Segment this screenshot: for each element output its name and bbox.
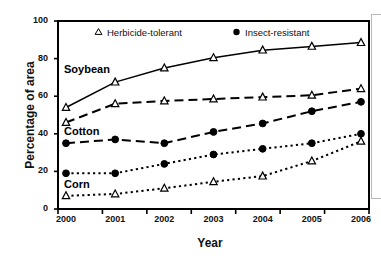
plot-area xyxy=(0,0,381,266)
data-point-marker xyxy=(358,98,365,105)
page-edge-sliver xyxy=(371,14,381,199)
data-point-marker xyxy=(111,190,118,197)
data-point-marker xyxy=(210,129,217,136)
data-point-marker xyxy=(259,120,266,127)
data-point-marker xyxy=(161,160,168,167)
data-point-marker xyxy=(308,157,315,164)
data-point-marker xyxy=(63,170,70,177)
data-point-marker xyxy=(161,184,168,191)
chart-figure: Percentage of area Year 020406080100 200… xyxy=(0,0,381,266)
series-line xyxy=(66,141,361,196)
series-line xyxy=(66,102,361,143)
data-point-marker xyxy=(357,137,364,144)
data-point-marker xyxy=(259,145,266,152)
data-point-marker xyxy=(63,140,70,147)
data-point-marker xyxy=(308,108,315,115)
data-point-marker xyxy=(357,39,364,46)
data-point-marker xyxy=(111,100,118,107)
data-point-marker xyxy=(112,136,119,143)
data-point-marker xyxy=(210,151,217,158)
data-point-marker xyxy=(161,140,168,147)
data-point-marker xyxy=(112,170,119,177)
data-point-marker xyxy=(308,140,315,147)
data-point-marker xyxy=(62,192,69,199)
